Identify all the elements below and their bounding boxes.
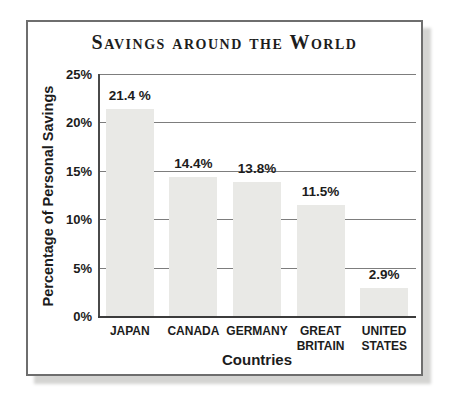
y-tick-0: 0% bbox=[48, 309, 92, 324]
gridline-25 bbox=[98, 74, 416, 75]
y-axis-line bbox=[98, 74, 100, 316]
y-tick-25: 25% bbox=[48, 67, 92, 82]
value-label-germany: 13.8% bbox=[212, 161, 302, 176]
bar-japan bbox=[106, 109, 154, 316]
bar-great-britain bbox=[297, 205, 345, 316]
x-tick-united-states: UNITED STATES bbox=[344, 324, 424, 354]
value-label-united-states: 2.9% bbox=[339, 267, 429, 282]
x-axis-line bbox=[98, 316, 416, 318]
value-label-great-britain: 11.5% bbox=[276, 184, 366, 199]
chart-title: Savings around the World bbox=[28, 31, 421, 54]
bar-canada bbox=[169, 177, 217, 316]
bar-united-states bbox=[360, 288, 408, 316]
bar-germany bbox=[233, 182, 281, 316]
page: Savings around the World 25%20%15%10%5%0… bbox=[0, 0, 450, 397]
x-axis-title: Countries bbox=[222, 351, 292, 368]
y-axis-title: Percentage of Personal Savings bbox=[40, 86, 56, 307]
chart-frame: Savings around the World 25%20%15%10%5%0… bbox=[26, 20, 423, 376]
